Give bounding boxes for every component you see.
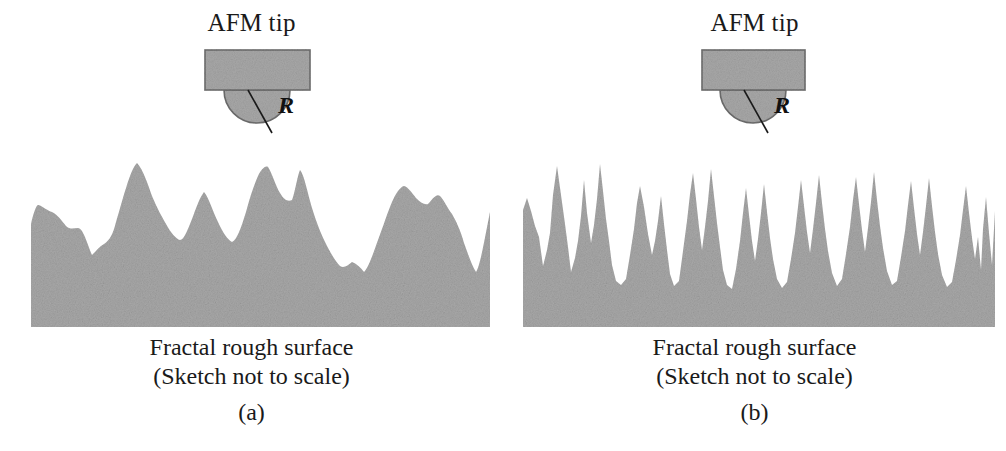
figure-root: AFM tip	[0, 0, 1006, 451]
surface-caption-line1-a: Fractal rough surface	[0, 333, 503, 362]
fractal-surface-a	[0, 155, 503, 330]
panel-index-label-a: (a)	[0, 398, 503, 427]
afm-tip-svg-a: R	[0, 45, 503, 150]
panel-a: AFM tip	[0, 0, 503, 451]
panel-index-label-b: (b)	[503, 398, 1006, 427]
fractal-surface-b	[503, 155, 1006, 330]
fractal-surface-svg-b	[503, 155, 1006, 330]
afm-tip-a: R	[0, 45, 503, 150]
fractal-surface-svg-a	[0, 155, 503, 330]
tip-radius-symbol-b: R	[773, 92, 790, 118]
tip-radius-symbol-a: R	[277, 92, 294, 118]
afm-tip-svg-b: R	[503, 45, 1006, 150]
tip-shank-rect-a	[205, 50, 310, 90]
panel-b: AFM tip	[503, 0, 1006, 451]
surface-caption-line2-b: (Sketch not to scale)	[503, 362, 1006, 391]
surface-caption-line2-a: (Sketch not to scale)	[0, 362, 503, 391]
afm-tip-b: R	[503, 45, 1006, 150]
tip-shank-rect-b	[702, 50, 805, 90]
surface-caption-line1-b: Fractal rough surface	[503, 333, 1006, 362]
surface-profile-path-a	[31, 163, 490, 327]
afm-tip-label-b: AFM tip	[503, 8, 1006, 38]
surface-profile-path-b	[523, 164, 995, 327]
afm-tip-label-a: AFM tip	[0, 8, 503, 38]
